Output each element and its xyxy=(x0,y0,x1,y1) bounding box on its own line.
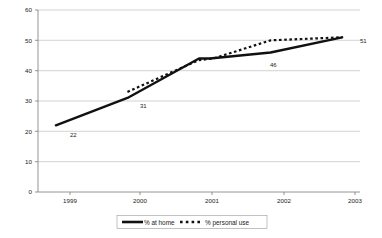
x-label-2003: 2003 xyxy=(348,197,362,204)
y-label-10: 10 xyxy=(25,158,32,165)
data-label-31: 31 xyxy=(140,103,147,109)
series-group xyxy=(56,37,342,125)
chart-container: 60 50 40 30 20 10 0 1999 2000 2001 2002 … xyxy=(0,0,382,238)
x-label-2000: 2000 xyxy=(133,197,147,204)
data-labels: 22 31 46 51 xyxy=(70,38,367,138)
y-label-60: 60 xyxy=(25,6,32,13)
x-tick-marks xyxy=(70,192,355,195)
data-label-51: 51 xyxy=(360,38,367,44)
legend-label-personal-use[interactable]: % personal use xyxy=(205,219,249,227)
x-label-2001: 2001 xyxy=(205,197,219,204)
y-axis-labels: 60 50 40 30 20 10 0 xyxy=(25,6,32,195)
data-label-46: 46 xyxy=(270,62,277,68)
y-label-50: 50 xyxy=(25,37,32,44)
gridlines xyxy=(38,10,360,162)
y-label-0: 0 xyxy=(29,188,33,195)
series-percent-at-home xyxy=(56,37,342,125)
legend: % at home % personal use xyxy=(117,216,267,229)
x-label-1999: 1999 xyxy=(63,197,77,204)
x-label-2002: 2002 xyxy=(277,197,291,204)
line-chart: 60 50 40 30 20 10 0 1999 2000 2001 2002 … xyxy=(0,0,382,238)
x-axis-labels: 1999 2000 2001 2002 2003 xyxy=(63,197,362,204)
legend-label-at-home[interactable]: % at home xyxy=(144,219,175,226)
y-tick-marks xyxy=(35,10,38,192)
y-label-30: 30 xyxy=(25,97,32,104)
y-label-40: 40 xyxy=(25,67,32,74)
data-label-22: 22 xyxy=(70,132,77,138)
y-label-20: 20 xyxy=(25,128,32,135)
series-percent-personal-use xyxy=(127,37,342,92)
